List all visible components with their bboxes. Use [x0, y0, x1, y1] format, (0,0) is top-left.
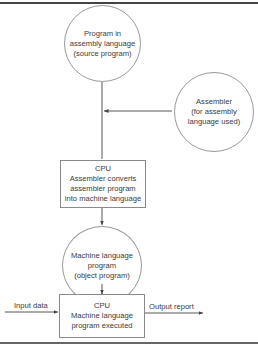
cpu1-title: CPU	[95, 164, 111, 174]
cpu-execute-node: CPU Machine language program executed	[59, 294, 145, 338]
assembler-node: Assembler (for assembly language used)	[174, 72, 254, 152]
cpu2-title: CPU	[94, 301, 110, 311]
cpu-assembler-node: CPU Assembler converts assembler program…	[60, 160, 146, 208]
source-program-text: Program in assembly language (source pro…	[70, 29, 135, 59]
output-report-label: Output report	[149, 302, 194, 311]
source-program-node: Program in assembly language (source pro…	[64, 5, 141, 82]
cpu2-text: Machine language program executed	[71, 311, 133, 331]
object-program-text: Machine language program (object program…	[71, 251, 133, 281]
assembler-text: Assembler (for assembly language used)	[188, 97, 240, 127]
cpu1-text: Assembler converts assembler program int…	[65, 174, 141, 204]
input-data-label: Input data	[14, 301, 48, 310]
